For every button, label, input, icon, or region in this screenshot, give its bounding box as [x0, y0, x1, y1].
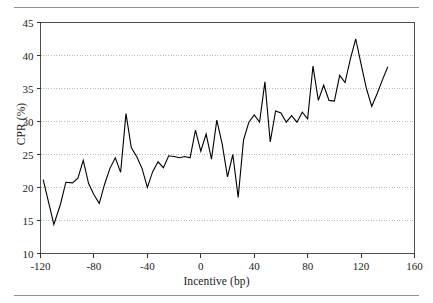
x-tick-label: 160 — [406, 260, 423, 272]
y-tick-label: 40 — [23, 50, 35, 62]
axes-group — [41, 23, 415, 254]
y-axis-label: CPR (%) — [15, 89, 27, 159]
figure-container: 1015202530354045-120-80-4004080120160 CP… — [0, 0, 433, 303]
x-tick-label: -40 — [140, 260, 155, 272]
data-series-line — [43, 39, 388, 224]
x-tick-label: 120 — [353, 260, 370, 272]
cpr-line — [43, 39, 388, 224]
y-tick-label: 15 — [23, 215, 35, 227]
gridlines-group — [41, 56, 415, 221]
y-tick-label: 45 — [23, 17, 35, 29]
x-axis-label: Incentive (bp) — [0, 275, 433, 287]
x-tick-label: -80 — [87, 260, 102, 272]
y-tick-label: 20 — [23, 182, 35, 194]
line-chart: 1015202530354045-120-80-4004080120160 — [0, 0, 433, 303]
x-tick-label: 0 — [198, 260, 204, 272]
tick-labels-group: 1015202530354045-120-80-4004080120160 — [23, 17, 424, 272]
x-tick-label: 40 — [249, 260, 261, 272]
x-tick-label: -120 — [30, 260, 51, 272]
tick-marks-group — [37, 23, 415, 258]
y-tick-label: 10 — [23, 248, 35, 260]
x-tick-label: 80 — [302, 260, 314, 272]
